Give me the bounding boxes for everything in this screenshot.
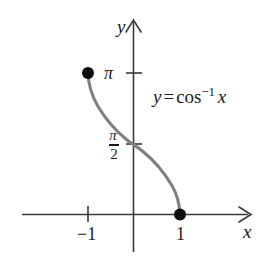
endpoint-dot-one-zero xyxy=(174,209,186,221)
plot-canvas xyxy=(0,0,268,264)
equation-cos-function: cos xyxy=(176,86,201,107)
equation-equals-symbol: = xyxy=(161,86,176,107)
equation-x-argument: x xyxy=(215,86,226,107)
x-axis-label: x xyxy=(243,222,251,241)
x-tick-label-one: 1 xyxy=(176,225,185,243)
endpoint-dot-neg1-pi xyxy=(82,67,94,79)
fraction-pi-over-2: π 2 xyxy=(109,128,119,162)
equation-inverse-exponent: −1 xyxy=(201,84,214,99)
y-tick-label-pi: π xyxy=(104,64,113,82)
curve-equation-label: y=cos−1x xyxy=(153,86,226,106)
y-tick-label-pi-over-2: π 2 xyxy=(103,128,125,162)
fraction-numerator: π xyxy=(109,128,119,143)
y-axis-label: y xyxy=(117,17,125,36)
inverse-cosine-graph-figure: y x π π 2 −1 1 y=cos−1x xyxy=(0,0,268,264)
x-tick-label-neg1: −1 xyxy=(77,225,96,243)
fraction-denominator: 2 xyxy=(109,147,119,162)
